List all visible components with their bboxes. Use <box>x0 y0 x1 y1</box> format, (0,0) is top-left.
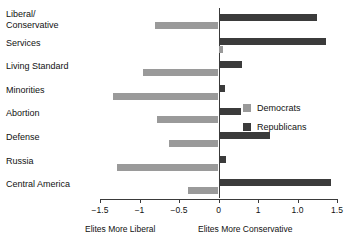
legend-swatch-icon <box>243 104 251 112</box>
bar-republicans <box>219 156 227 163</box>
axis-tick-label: −0.5 <box>171 205 188 215</box>
legend-swatch-icon <box>243 123 251 131</box>
axis-tick-label: 0 <box>216 205 221 215</box>
bar-democrats <box>143 69 218 76</box>
bar-republicans <box>219 179 331 186</box>
axis-tick-label: −1 <box>135 205 145 215</box>
bar-democrats <box>113 93 218 100</box>
bar-republicans <box>219 108 241 115</box>
bar-republicans <box>219 38 326 45</box>
axis-tick-label: 1 <box>256 205 261 215</box>
value-axis: −1.5−1−0.5011.01.5 <box>100 199 337 200</box>
bar-republicans <box>219 61 243 68</box>
bar-democrats <box>155 22 218 29</box>
axis-tick <box>179 199 180 203</box>
axis-tick <box>258 199 259 203</box>
legend-label: Republicans <box>257 122 307 132</box>
axis-caption-right: Elites More Conservative <box>198 224 292 234</box>
category-label: Liberal/ Conservative <box>6 9 98 30</box>
bar-democrats <box>117 164 218 171</box>
category-label: Abortion <box>6 108 98 119</box>
bar-chart: Liberal/ ConservativeServicesLiving Stan… <box>0 0 356 248</box>
zero-reference-line <box>219 8 220 198</box>
axis-tick-label: −1.5 <box>92 205 109 215</box>
axis-tick <box>219 199 220 203</box>
bar-democrats <box>169 140 219 147</box>
axis-tick <box>140 199 141 203</box>
bar-democrats <box>157 116 219 123</box>
legend-label: Democrats <box>257 103 301 113</box>
axis-tick <box>100 199 101 203</box>
axis-tick-label: 1.0 <box>292 205 304 215</box>
bar-democrats <box>188 187 218 194</box>
category-label: Russia <box>6 156 98 167</box>
axis-tick-label: 1.5 <box>331 205 343 215</box>
legend-item: Democrats <box>243 100 351 115</box>
category-label: Services <box>6 38 98 49</box>
category-label: Minorities <box>6 85 98 96</box>
bar-republicans <box>219 14 318 21</box>
axis-caption-left: Elites More Liberal <box>85 224 155 234</box>
category-label: Central America <box>6 179 98 190</box>
legend-item: Republicans <box>243 119 351 134</box>
bar-republicans <box>219 85 225 92</box>
axis-tick <box>298 199 299 203</box>
axis-tick <box>337 199 338 203</box>
category-label: Defense <box>6 132 98 143</box>
category-label: Living Standard <box>6 61 98 72</box>
bar-democrats <box>219 46 224 53</box>
category-axis-labels: Liberal/ ConservativeServicesLiving Stan… <box>6 8 98 198</box>
legend: DemocratsRepublicans <box>243 100 351 138</box>
